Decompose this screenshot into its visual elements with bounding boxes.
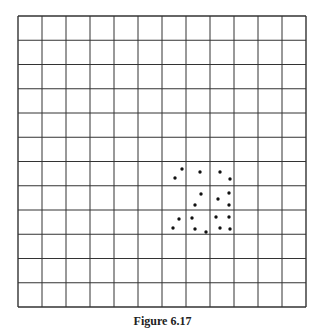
- dot: [228, 177, 231, 180]
- dot: [218, 226, 221, 229]
- figure-caption: Figure 6.17: [0, 314, 325, 329]
- dot: [227, 191, 230, 194]
- dot: [177, 217, 180, 220]
- dot: [173, 176, 176, 179]
- dot: [190, 216, 193, 219]
- dot: [227, 203, 230, 206]
- dot: [198, 170, 201, 173]
- dot: [214, 215, 217, 218]
- grid-lines: [18, 16, 306, 307]
- dot: [216, 197, 219, 200]
- dot: [218, 170, 221, 173]
- dot: [193, 203, 196, 206]
- grid-diagram: [0, 0, 325, 335]
- dot: [193, 227, 196, 230]
- dot: [171, 226, 174, 229]
- dot: [227, 215, 230, 218]
- dot: [180, 167, 183, 170]
- dot: [199, 192, 202, 195]
- dot-cluster: [171, 167, 231, 233]
- dot: [204, 230, 207, 233]
- dot: [228, 227, 231, 230]
